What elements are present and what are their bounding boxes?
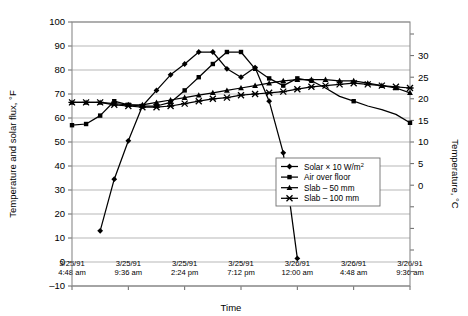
data-point-marker bbox=[253, 67, 257, 71]
data-point-marker bbox=[266, 90, 273, 96]
y-axis-tick-label: 60 bbox=[54, 112, 65, 123]
y-axis-title: Temperature and solar flux, °F bbox=[7, 90, 18, 218]
data-point-marker bbox=[280, 150, 286, 156]
legend-item-label: Slab – 50 mm bbox=[304, 184, 355, 193]
data-point-marker bbox=[209, 96, 216, 102]
y2-axis-title: Temperature, °C bbox=[450, 139, 461, 208]
plot-area-border bbox=[72, 22, 410, 286]
data-point-marker bbox=[223, 95, 230, 101]
y2-axis-tick-label: 0 bbox=[418, 180, 423, 191]
data-point-marker bbox=[84, 122, 88, 126]
data-point-marker bbox=[197, 75, 201, 79]
data-point-marker bbox=[408, 121, 412, 125]
data-point-marker bbox=[225, 50, 229, 54]
y2-axis-tick-label: 10 bbox=[418, 136, 429, 147]
y-axis-tick-label: 80 bbox=[54, 64, 65, 75]
x-axis-tick-label-time: 4:48 am bbox=[340, 268, 367, 277]
data-point-marker bbox=[294, 86, 301, 92]
x-axis-title: Time bbox=[221, 302, 242, 313]
y-axis-tick-label: 10 bbox=[54, 232, 65, 243]
x-axis-tick-label-date: 3/25/91 bbox=[172, 259, 197, 268]
y-axis-tick-label: 20 bbox=[54, 208, 65, 219]
data-point-marker bbox=[182, 88, 186, 92]
data-point-marker bbox=[125, 138, 131, 144]
x-axis-tick-label-time: 9:36 am bbox=[115, 268, 142, 277]
y2-axis-tick-label: 20 bbox=[418, 93, 429, 104]
y-axis-tick-label: 90 bbox=[54, 40, 65, 51]
data-point-marker bbox=[267, 76, 271, 80]
data-point-marker bbox=[308, 84, 315, 90]
series-1 bbox=[97, 49, 300, 261]
legend-item-label: Slab – 100 mm bbox=[304, 194, 359, 203]
data-point-marker bbox=[211, 62, 215, 66]
y-axis-tick-label: 30 bbox=[54, 184, 65, 195]
data-point-marker bbox=[181, 101, 188, 107]
x-axis-tick-label-time: 12:00 am bbox=[281, 268, 313, 277]
data-point-marker bbox=[237, 92, 244, 98]
y-axis-tick-label: 50 bbox=[54, 136, 65, 147]
data-point-marker bbox=[266, 98, 272, 104]
legend-marker-square bbox=[287, 175, 291, 179]
legend-item-label: Solar × 10 W/m2 bbox=[304, 162, 364, 172]
y-axis-tick-label: –10 bbox=[49, 280, 65, 291]
x-axis-tick-label-date: 3/25/91 bbox=[116, 259, 141, 268]
y-axis-tick-label: 70 bbox=[54, 88, 65, 99]
y2-axis-tick-label: 25 bbox=[418, 72, 429, 83]
line-chart-canvas: –1001020304050607080901000510152025303/2… bbox=[0, 0, 468, 316]
data-point-marker bbox=[351, 99, 355, 103]
data-point-marker bbox=[251, 91, 258, 97]
x-axis-tick-label-time: 7:12 pm bbox=[227, 268, 254, 277]
y2-axis-tick-label: 15 bbox=[418, 115, 429, 126]
y2-axis-tick-label: 30 bbox=[418, 50, 429, 61]
legend: Solar × 10 W/m2Air over floorSlab – 50 m… bbox=[276, 158, 380, 206]
x-axis-tick-label-date: 3/25/91 bbox=[228, 259, 253, 268]
data-point-marker bbox=[195, 98, 202, 104]
legend-item-label: Air over floor bbox=[304, 173, 351, 182]
data-point-marker bbox=[98, 113, 102, 117]
data-point-marker bbox=[239, 50, 243, 54]
y-axis-tick-label: 100 bbox=[49, 16, 65, 27]
data-point-marker bbox=[111, 176, 117, 182]
x-axis-tick-label-date: 3/26/91 bbox=[341, 259, 366, 268]
y-axis-tick-label: 40 bbox=[54, 160, 65, 171]
data-point-marker bbox=[70, 123, 74, 127]
y2-axis-tick-label: 5 bbox=[418, 158, 423, 169]
chart-figure: –1001020304050607080901000510152025303/2… bbox=[0, 0, 468, 316]
series-4 bbox=[68, 80, 413, 110]
data-point-marker bbox=[97, 228, 103, 234]
x-axis-tick-label-time: 2:24 pm bbox=[171, 268, 198, 277]
data-point-marker bbox=[281, 83, 285, 87]
